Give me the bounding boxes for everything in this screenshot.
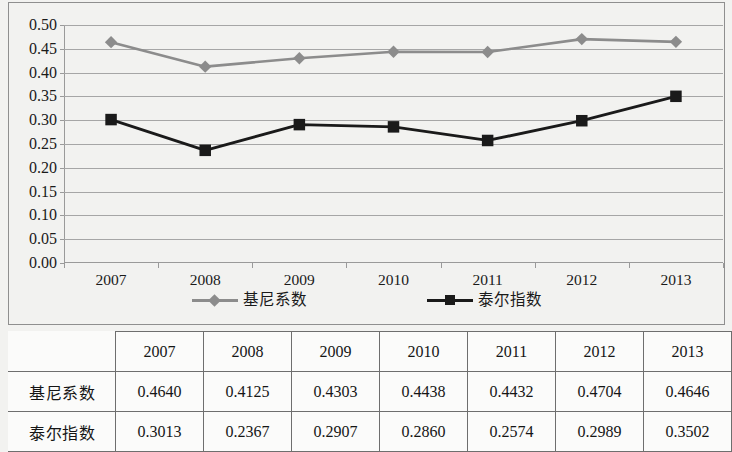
table-row-header: 泰尔指数 bbox=[9, 412, 116, 452]
legend-label-theil: 泰尔指数 bbox=[478, 292, 542, 308]
diamond-marker-icon bbox=[192, 293, 238, 307]
table-column-header: 2007 bbox=[116, 332, 204, 372]
data-point-diamond bbox=[387, 46, 399, 58]
y-tick-label: 0.25 bbox=[29, 136, 57, 152]
table-cell: 0.4303 bbox=[292, 372, 380, 412]
y-tick-label: 0.10 bbox=[29, 207, 57, 223]
legend-label-gini: 基尼系数 bbox=[243, 292, 307, 308]
table-cell: 0.4704 bbox=[556, 372, 644, 412]
x-tick-mark bbox=[64, 263, 65, 268]
series-plot bbox=[64, 25, 723, 263]
data-point-square bbox=[482, 135, 494, 147]
x-tick-mark bbox=[441, 263, 442, 268]
data-table: 2007200820092010201120122013 基尼系数0.46400… bbox=[8, 331, 732, 452]
legend-entry-theil: 泰尔指数 bbox=[427, 292, 542, 308]
x-tick-label: 2010 bbox=[378, 272, 409, 288]
table-cell: 0.3502 bbox=[644, 412, 732, 452]
x-tick-label: 2007 bbox=[96, 272, 127, 288]
table-column-header: 2013 bbox=[644, 332, 732, 372]
table-row-header: 基尼系数 bbox=[9, 372, 116, 412]
table-cell: 0.4646 bbox=[644, 372, 732, 412]
x-tick-label: 2009 bbox=[284, 272, 315, 288]
data-point-square bbox=[199, 145, 211, 157]
table-cell: 0.2574 bbox=[468, 412, 556, 452]
table-cell: 0.4125 bbox=[204, 372, 292, 412]
x-tick-mark bbox=[723, 263, 724, 268]
y-tick-label: 0.30 bbox=[29, 112, 57, 128]
y-tick-label: 0.05 bbox=[29, 231, 57, 247]
y-tick-label: 0.35 bbox=[29, 88, 57, 104]
y-tick-label: 0.45 bbox=[29, 41, 57, 57]
square-marker-icon bbox=[427, 293, 473, 307]
table-header-row: 2007200820092010201120122013 bbox=[9, 332, 732, 372]
table-cell: 0.4640 bbox=[116, 372, 204, 412]
data-point-diamond bbox=[481, 46, 493, 58]
y-tick-label: 0.20 bbox=[29, 160, 57, 176]
x-tick-mark bbox=[629, 263, 630, 268]
table-body: 基尼系数0.46400.41250.43030.44380.44320.4704… bbox=[9, 372, 732, 452]
data-point-square bbox=[576, 115, 588, 127]
chart-container: 0.500.450.400.350.300.250.200.150.100.05… bbox=[8, 2, 725, 325]
table-cell: 0.2367 bbox=[204, 412, 292, 452]
plot-area: 0.500.450.400.350.300.250.200.150.100.05… bbox=[64, 25, 723, 263]
table-corner-cell bbox=[9, 332, 116, 372]
x-tick-label: 2013 bbox=[660, 272, 691, 288]
table-column-header: 2008 bbox=[204, 332, 292, 372]
x-tick-mark bbox=[346, 263, 347, 268]
table-column-header: 2009 bbox=[292, 332, 380, 372]
data-point-diamond bbox=[670, 36, 682, 48]
series-gini bbox=[105, 33, 682, 73]
x-tick-mark bbox=[252, 263, 253, 268]
x-tick-mark bbox=[158, 263, 159, 268]
table-cell: 0.3013 bbox=[116, 412, 204, 452]
data-point-diamond bbox=[576, 33, 588, 45]
y-tick-label: 0.50 bbox=[29, 17, 57, 33]
table-row: 泰尔指数0.30130.23670.29070.28600.25740.2989… bbox=[9, 412, 732, 452]
data-point-square bbox=[105, 114, 117, 126]
table-cell: 0.4432 bbox=[468, 372, 556, 412]
y-tick-label: 0.00 bbox=[29, 255, 57, 271]
table-column-header: 2011 bbox=[468, 332, 556, 372]
y-tick-label: 0.40 bbox=[29, 65, 57, 81]
x-tick-label: 2012 bbox=[566, 272, 597, 288]
table-column-header: 2012 bbox=[556, 332, 644, 372]
series-theil bbox=[105, 91, 681, 157]
data-point-square bbox=[388, 121, 400, 133]
table-cell: 0.2860 bbox=[380, 412, 468, 452]
data-point-diamond bbox=[199, 60, 211, 72]
data-point-diamond bbox=[293, 52, 305, 64]
x-tick-label: 2008 bbox=[190, 272, 221, 288]
table-cell: 0.2907 bbox=[292, 412, 380, 452]
table-cell: 0.2989 bbox=[556, 412, 644, 452]
data-point-diamond bbox=[105, 36, 117, 48]
x-tick-mark bbox=[535, 263, 536, 268]
table-head: 2007200820092010201120122013 bbox=[9, 332, 732, 372]
data-point-square bbox=[294, 119, 306, 131]
chart-legend: 基尼系数 泰尔指数 bbox=[9, 292, 724, 308]
table-cell: 0.4438 bbox=[380, 372, 468, 412]
x-tick-label: 2011 bbox=[472, 272, 502, 288]
data-point-square bbox=[670, 91, 682, 103]
y-tick-label: 0.15 bbox=[29, 184, 57, 200]
legend-entry-gini: 基尼系数 bbox=[192, 292, 307, 308]
table-row: 基尼系数0.46400.41250.43030.44380.44320.4704… bbox=[9, 372, 732, 412]
table-column-header: 2010 bbox=[380, 332, 468, 372]
